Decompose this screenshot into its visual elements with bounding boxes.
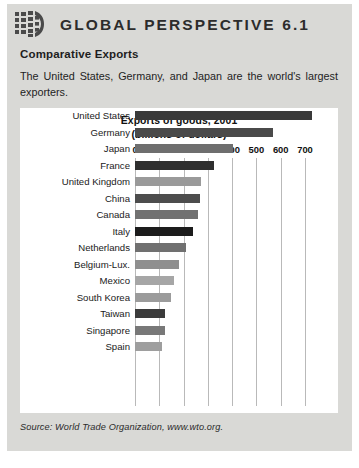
source-note: Source: World Trade Organization, www.wt…: [20, 422, 223, 432]
bar-row: United States: [20, 108, 338, 123]
bar-row: China: [20, 191, 338, 206]
bar: [135, 293, 171, 302]
category-label: France: [20, 158, 130, 173]
content-panel: GLOBAL PERSPECTIVE 6.1 Comparative Expor…: [7, 4, 352, 451]
category-label: Taiwan: [20, 306, 130, 321]
category-label: United States: [20, 108, 130, 123]
bar-row: Germany: [20, 125, 338, 140]
bar: [135, 144, 233, 153]
bar-row: Spain: [20, 339, 338, 354]
bar-row: France: [20, 158, 338, 173]
category-label: Mexico: [20, 273, 130, 288]
bar: [135, 243, 186, 252]
category-label: Germany: [20, 125, 130, 140]
bar-row: Japan: [20, 141, 338, 156]
bar: [135, 227, 193, 236]
bar-row: Canada: [20, 207, 338, 222]
bar: [135, 276, 174, 285]
box-header: GLOBAL PERSPECTIVE 6.1: [7, 4, 352, 45]
category-label: Japan: [20, 141, 130, 156]
globe-grid-icon: [15, 11, 49, 38]
bar: [135, 194, 200, 203]
intro-paragraph: The United States, Germany, and Japan ar…: [20, 68, 338, 100]
bar-row: Taiwan: [20, 306, 338, 321]
category-label: South Korea: [20, 290, 130, 305]
category-label: China: [20, 191, 130, 206]
bar: [135, 161, 214, 170]
bar: [135, 177, 201, 186]
box-title: GLOBAL PERSPECTIVE 6.1: [60, 16, 310, 34]
global-perspective-box: GLOBAL PERSPECTIVE 6.1 Comparative Expor…: [0, 0, 359, 468]
category-label: Spain: [20, 339, 130, 354]
bar: [135, 326, 165, 335]
section-subtitle: Comparative Exports: [20, 48, 139, 60]
chart-card: Exports of goods, 2001 (billions of doll…: [20, 108, 338, 413]
bar-rows: United StatesGermanyJapanFranceUnited Ki…: [20, 108, 338, 356]
bar-row: United Kingdom: [20, 174, 338, 189]
bar-row: South Korea: [20, 290, 338, 305]
category-label: Belgium-Lux.: [20, 257, 130, 272]
bar-row: Italy: [20, 224, 338, 239]
category-label: Italy: [20, 224, 130, 239]
category-label: Singapore: [20, 323, 130, 338]
category-label: Netherlands: [20, 240, 130, 255]
category-label: Canada: [20, 207, 130, 222]
bar-row: Singapore: [20, 323, 338, 338]
bar-row: Belgium-Lux.: [20, 257, 338, 272]
bar: [135, 309, 165, 318]
bar: [135, 111, 312, 120]
bar: [135, 260, 179, 269]
bar: [135, 210, 198, 219]
bar-row: Mexico: [20, 273, 338, 288]
bar: [135, 128, 273, 137]
category-label: United Kingdom: [20, 174, 130, 189]
bar: [135, 342, 162, 351]
bar-row: Netherlands: [20, 240, 338, 255]
